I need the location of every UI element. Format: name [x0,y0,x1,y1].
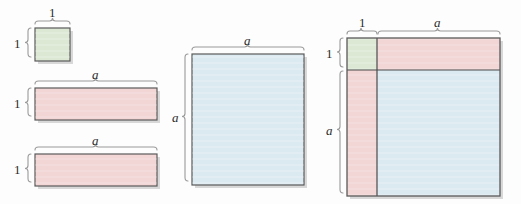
square-a-top-label: a [244,34,251,47]
composite-left-a-label: a [326,124,333,137]
rect-bottom-texture [35,154,157,186]
composite-square-panel [337,28,503,199]
rect-bottom-left-brace [25,154,31,182]
unit-square-left-brace [25,28,31,57]
square-a-left-label: a [172,111,179,124]
composite-left-1-label: 1 [326,47,333,60]
unit-square-top-label: 1 [49,6,56,19]
rect-1-by-a-bottom-panel [25,144,160,189]
unit-square-left-label: 1 [14,37,21,50]
square-a-texture [192,54,304,185]
square-a-left-brace [182,54,188,181]
composite-texture [347,38,500,196]
unit-square-texture [35,28,70,61]
rect-1-by-a-top-panel [25,78,160,123]
rect-top-top-label: a [92,68,99,81]
rect-top-left-brace [25,88,31,116]
composite-top-1-label: 1 [359,16,366,29]
composite-top-a-label: a [434,16,441,29]
square-a-by-a-panel [182,44,307,188]
rect-top-texture [35,88,157,120]
composite-left-a-brace [337,71,343,193]
area-model-figure: 1 1 a 1 a 1 a a 1 a 1 a [0,0,521,204]
figure-canvas [0,0,521,204]
rect-bottom-left-label: 1 [14,163,21,176]
rect-top-left-label: 1 [14,97,21,110]
unit-square-panel [25,18,73,64]
rect-bottom-top-label: a [92,134,99,147]
composite-left-1-brace [337,38,343,67]
